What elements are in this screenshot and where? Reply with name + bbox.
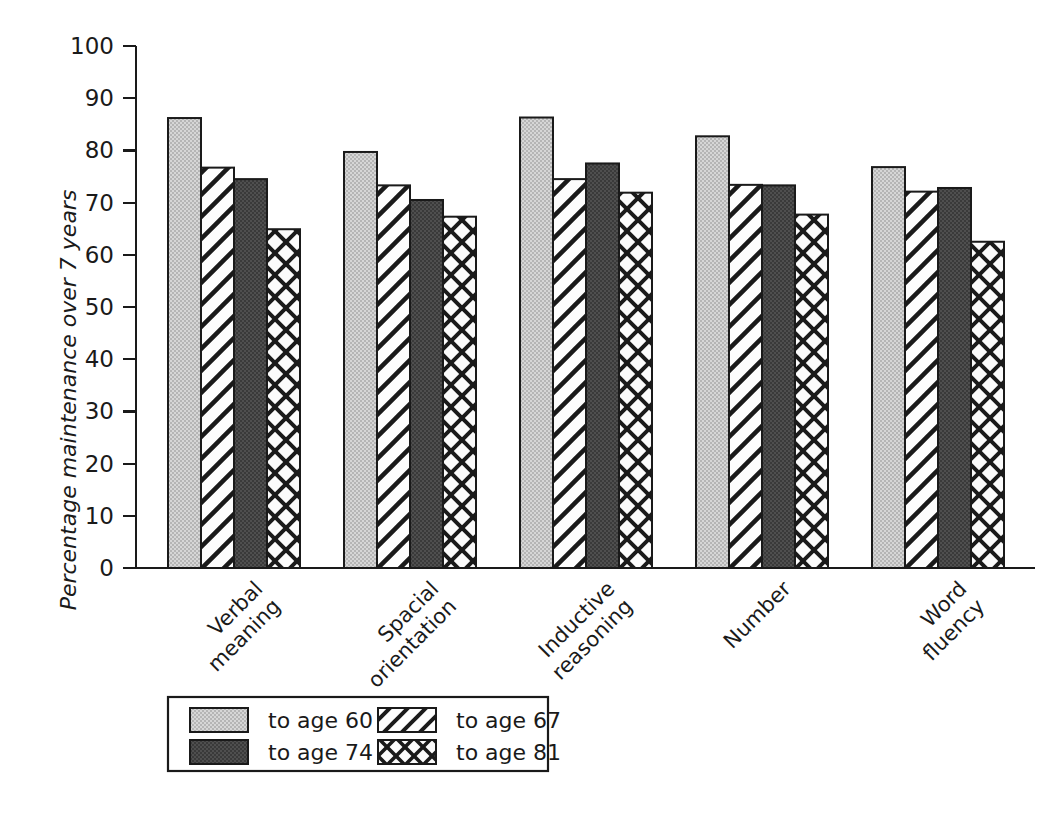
light-gray-stipple-swatch <box>190 708 248 732</box>
y-axis-tick-label: 40 <box>85 346 114 372</box>
bar <box>762 185 795 568</box>
y-axis-tick-label: 100 <box>70 33 114 59</box>
y-axis-tick-label: 30 <box>85 398 114 424</box>
bar <box>795 215 828 568</box>
bar <box>619 193 652 568</box>
bar <box>872 167 905 568</box>
cross-hatch-swatch <box>378 740 436 764</box>
bar <box>553 179 586 568</box>
diagonal-hatch-swatch <box>378 708 436 732</box>
legend-label-to-age-74: to age 74 <box>268 740 373 765</box>
bar <box>586 163 619 568</box>
y-axis-tick-label: 10 <box>85 503 114 529</box>
y-axis-tick-label: 90 <box>85 85 114 111</box>
y-axis-tick-label: 20 <box>85 451 114 477</box>
bar <box>168 118 201 568</box>
legend-label-to-age-67: to age 67 <box>456 708 561 733</box>
bar <box>520 118 553 568</box>
bar <box>201 168 234 568</box>
y-axis-tick-label: 70 <box>85 190 114 216</box>
y-axis-tick-label: 60 <box>85 242 114 268</box>
bar <box>971 242 1004 568</box>
bar <box>410 200 443 568</box>
bar <box>267 229 300 568</box>
y-axis-tick-label: 50 <box>85 294 114 320</box>
bar <box>729 185 762 568</box>
y-axis-title-text: Percentage maintenance over 7 years <box>56 190 81 611</box>
y-axis-tick-label: 80 <box>85 137 114 163</box>
legend-label-to-age-81: to age 81 <box>456 740 561 765</box>
bar <box>443 217 476 568</box>
bar <box>905 192 938 568</box>
legend-label-to-age-60: to age 60 <box>268 708 373 733</box>
bar <box>234 179 267 568</box>
chart-canvas: Percentage maintenance over 7 years 0102… <box>0 0 1049 823</box>
y-axis-title: Percentage maintenance over 7 years <box>56 190 81 611</box>
dark-solid-swatch <box>190 740 248 764</box>
bar <box>344 152 377 568</box>
bar <box>938 188 971 568</box>
bar-chart: Percentage maintenance over 7 years 0102… <box>0 0 1049 823</box>
bar <box>377 185 410 568</box>
bar <box>696 136 729 568</box>
y-axis-tick-label: 0 <box>99 555 114 581</box>
